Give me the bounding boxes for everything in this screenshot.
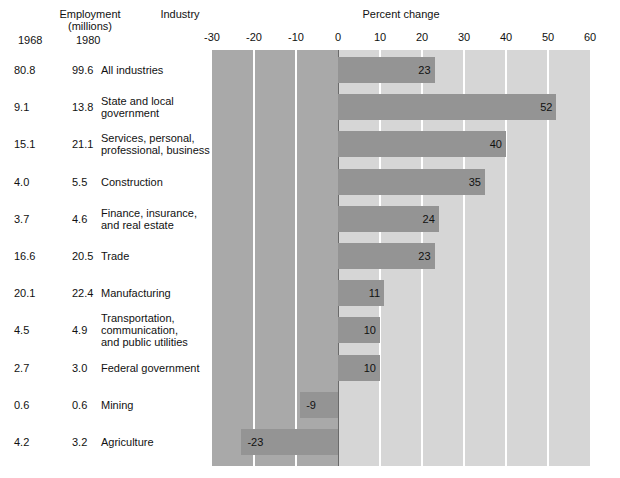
bar-value-label: -23 [247,429,263,455]
bar-value-label: 10 [360,317,376,343]
industry-name: All industries [101,64,213,76]
x-axis-tick-40: 40 [500,31,512,43]
employment-1968-value: 0.6 [14,392,54,418]
industry-name: Services, personal,professional, busines… [101,132,213,156]
industry-name: Federal government [101,362,213,374]
x-axis-tick-0: 0 [335,31,341,43]
table-row: 20.122.4Manufacturing [0,280,212,306]
industry-name-line: Manufacturing [101,287,213,299]
industry-name-line: Agriculture [101,436,213,448]
bar [338,169,485,195]
x-axis-tick-20: 20 [416,31,428,43]
employment-1968-value: 9.1 [14,94,54,120]
table-row: 4.23.2Agriculture [0,429,212,455]
employment-1968-value: 15.1 [14,131,54,157]
year-header-1968: 1968 [18,34,54,46]
table-row: 80.899.6All industries [0,57,212,83]
year-header-1980: 1980 [76,34,112,46]
employment-1968-value: 4.2 [14,429,54,455]
chart-title: Percent change [212,8,590,20]
industry-name-line: All industries [101,64,213,76]
employment-1968-value: 16.6 [14,243,54,269]
industry-name-line: professional, business [101,144,213,156]
industry-name: Construction [101,176,213,188]
industry-name-line: communication, [101,324,213,336]
industry-name: Transportation,communication,and public … [101,312,213,348]
industry-name-line: and real estate [101,219,213,231]
industry-name-line: State and local [101,95,213,107]
bar [338,94,556,120]
bar-value-label: 10 [360,355,376,381]
x-axis-tick-10: 10 [374,31,386,43]
industry-name-line: Services, personal, [101,132,213,144]
table-row: 15.121.1Services, personal,professional,… [0,131,212,157]
industry-name: Trade [101,250,213,262]
employment-1968-value: 20.1 [14,280,54,306]
x-axis-tick-neg20: -20 [246,31,262,43]
bar-value-label: 11 [364,280,380,306]
bar-value-label: 23 [415,57,431,83]
bar-value-label: 35 [465,169,481,195]
employment-1968-value: 4.5 [14,317,54,343]
employment-1968-value: 4.0 [14,169,54,195]
gridline--20 [253,50,255,466]
table-row: 0.60.6Mining [0,392,212,418]
table-row: 4.54.9Transportation,communication,and p… [0,317,212,343]
employment-1968-value: 80.8 [14,57,54,83]
industry-name-line: and public utilities [101,336,213,348]
x-axis-tick-50: 50 [542,31,554,43]
bar-value-label: 23 [415,243,431,269]
chart-page: Employment (millions) Industry 1968 1980… [0,0,620,478]
industry-name-line: Transportation, [101,312,213,324]
industry-name-line: Construction [101,176,213,188]
bar-value-label: 40 [486,131,502,157]
bar-value-label: -9 [306,392,316,418]
table-row: 2.73.0Federal government [0,355,212,381]
x-axis-tick-60: 60 [584,31,596,43]
plot-area: 235240352423111010-9-23 [212,50,590,466]
industry-name-line: Mining [101,399,213,411]
employment-header-line2: (millions) [20,20,160,32]
x-axis-tick-30: 30 [458,31,470,43]
table-row: 9.113.8State and localgovernment [0,94,212,120]
industry-name-line: government [101,107,213,119]
employment-1968-value: 2.7 [14,355,54,381]
industry-name: Agriculture [101,436,213,448]
x-axis: -30-20-100102030405060 [212,31,590,46]
bar-value-label: 24 [419,206,435,232]
table-row: 4.05.5Construction [0,169,212,195]
bar-value-label: 52 [536,94,552,120]
employment-1968-value: 3.7 [14,206,54,232]
gridline--10 [295,50,297,466]
industry-name-line: Federal government [101,362,213,374]
industry-name: Mining [101,399,213,411]
x-axis-tick-neg10: -10 [288,31,304,43]
industry-name: Manufacturing [101,287,213,299]
x-axis-tick-neg30: -30 [204,31,220,43]
industry-name: State and localgovernment [101,95,213,119]
industry-name-line: Finance, insurance, [101,207,213,219]
bar [338,131,506,157]
industry-name: Finance, insurance,and real estate [101,207,213,231]
table-row: 16.620.5Trade [0,243,212,269]
table-row: 3.74.6Finance, insurance,and real estate [0,206,212,232]
industry-name-line: Trade [101,250,213,262]
